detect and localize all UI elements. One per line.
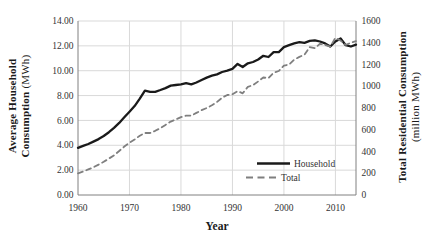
left-y-axis-title-line2: Consumption(MWh) [19,55,31,158]
left-y-axis-tick-label: 4.00 [57,140,74,150]
left-y-axis-tick-label: 8.00 [57,91,74,101]
right-y-axis-tick-label: 1600 [362,16,381,26]
legend-item-household: Household [257,157,335,170]
legend-total-line-sample [246,175,277,180]
household-series-line [78,38,356,147]
left-y-axis-title-line1: Average Household [6,59,18,154]
right-y-axis-tick-label: 1000 [362,81,381,91]
left-y-axis-tick-label: 0.00 [57,190,74,200]
left-y-axis-title-word: Consumption [19,92,31,158]
legend-household-line-sample [257,161,290,166]
right-y-axis-tick-label: 600 [362,125,377,135]
left-y-axis-tick-label: 2.00 [57,165,74,175]
x-axis-tick-label: 1980 [171,203,190,213]
x-axis-tick-label: 1970 [120,203,139,213]
left-y-axis-tick-label: 6.00 [57,116,74,126]
total-series-line [78,38,356,173]
x-axis-title: Year [206,220,229,232]
left-y-axis-tick-label: 12.00 [52,41,74,51]
right-y-axis-tick-label: 200 [362,168,377,178]
x-axis-tick-label: 1960 [69,203,88,213]
chart-plot-area: 14.0012.0010.008.006.004.002.000.0016001… [0,0,432,243]
right-y-axis-tick-label: 400 [362,147,377,157]
legend-item-total: Total [246,171,300,184]
left-y-axis-tick-label: 10.00 [52,66,74,76]
x-axis-tick-label: 1990 [223,203,242,213]
legend-total-label: Total [281,173,300,183]
x-axis-tick-label: 2010 [326,203,345,213]
right-y-axis-tick-label: 0 [362,190,367,200]
right-y-axis-tick-label: 1200 [362,60,381,70]
x-axis-tick-label: 2000 [274,203,293,213]
left-y-axis-tick-label: 14.00 [52,16,74,26]
right-y-axis-title-unit: (million MWh) [409,72,421,142]
consumption-chart-figure: 14.0012.0010.008.006.004.002.000.0016001… [0,0,432,243]
left-y-axis-title-unit: (MWh) [19,55,31,89]
right-y-axis-tick-label: 800 [362,103,377,113]
right-y-axis-tick-label: 1400 [362,38,381,48]
legend-household-label: Household [294,159,335,169]
right-y-axis-title-line1: Total Residential Consumption [396,31,408,182]
